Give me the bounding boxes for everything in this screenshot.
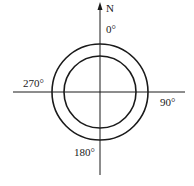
bearing-label-180: 180°	[74, 146, 95, 158]
north-arrow-icon	[98, 2, 103, 10]
bearing-label-270: 270°	[23, 77, 44, 89]
bearing-label-0: 0°	[106, 23, 116, 35]
north-label: N	[106, 2, 114, 14]
compass-diagram: N 0° 270° 90° 180°	[0, 0, 194, 186]
bearing-label-90: 90°	[160, 96, 175, 108]
